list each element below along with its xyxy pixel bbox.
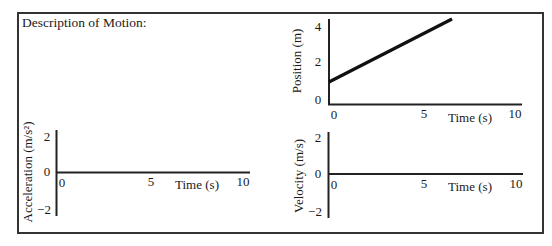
velocity-ytick-0: 0 [315,166,322,181]
velocity-xlabel: Time (s) [448,179,492,194]
acceleration-xtick-0: 0 [59,175,66,190]
velocity-xtick-5: 5 [421,176,428,191]
position-ytick-2: 2 [315,54,322,69]
acceleration-ytick-neg2: −2 [37,202,51,217]
velocity-graph: 2 0 −2 0 5 10 Time (s) Velocity (m/s) [291,130,523,219]
position-xtick-5: 5 [421,106,428,121]
velocity-xtick-10: 10 [510,176,523,191]
acceleration-ylabel: Acceleration (m/s²) [20,122,35,223]
velocity-ytick-2: 2 [315,130,322,145]
position-ytick-4: 4 [315,19,322,34]
velocity-ytick-neg2: −2 [308,204,322,219]
position-ytick-0: 0 [315,92,322,107]
position-xlabel: Time (s) [448,110,492,125]
position-ylabel: Position (m) [289,29,304,94]
acceleration-graph: 2 0 −2 0 5 10 Time (s) Acceleration (m/s… [20,122,250,223]
acceleration-ytick-2: 2 [44,129,51,144]
acceleration-xlabel: Time (s) [175,177,219,192]
position-graph: 0 2 4 0 5 10 Time (s) Position (m) [289,19,522,125]
position-xtick-0: 0 [331,107,338,122]
velocity-xtick-0: 0 [331,177,338,192]
graphs-canvas: 0 2 4 0 5 10 Time (s) Position (m) 2 0 −… [0,0,552,246]
acceleration-xtick-5: 5 [148,174,155,189]
acceleration-ytick-0: 0 [44,164,51,179]
position-xtick-10: 10 [509,106,522,121]
velocity-ylabel: Velocity (m/s) [291,139,306,213]
position-line [329,19,452,82]
acceleration-xtick-10: 10 [237,174,250,189]
